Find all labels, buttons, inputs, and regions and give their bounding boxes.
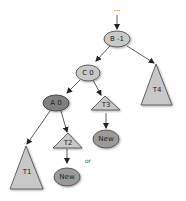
- node-c: C 0: [76, 65, 100, 81]
- edge-b-t4: [127, 46, 154, 63]
- edge-c-a: [67, 80, 80, 93]
- svg-text:A 0: A 0: [50, 99, 61, 107]
- edge-c-t3: [93, 80, 101, 95]
- ellipsis-label: ...: [114, 5, 121, 13]
- svg-text:C 0: C 0: [82, 69, 94, 77]
- subtree-t1: T1: [10, 146, 43, 189]
- edges: [27, 15, 154, 163]
- svg-text:T4: T4: [152, 86, 162, 94]
- edge-b-c: [96, 46, 110, 61]
- subtree-t3: T3: [91, 96, 120, 110]
- svg-text:New: New: [98, 135, 114, 143]
- edge-a-t1: [27, 111, 50, 144]
- svg-text:T2: T2: [63, 139, 73, 147]
- subtree-t2: T2: [53, 133, 82, 148]
- subtree-t4: T4: [141, 64, 172, 105]
- tree-diagram: ... B -1 C 0 A 0 T4 T3 New: [0, 0, 186, 201]
- node-b: B -1: [104, 31, 130, 47]
- or-label: or: [85, 157, 92, 164]
- node-a: A 0: [43, 95, 69, 111]
- svg-text:New: New: [59, 173, 75, 181]
- node-new-t2: New: [54, 168, 80, 186]
- node-new-t3: New: [93, 130, 119, 148]
- svg-text:B -1: B -1: [110, 35, 124, 43]
- svg-text:T3: T3: [101, 101, 111, 109]
- svg-text:T1: T1: [22, 168, 32, 176]
- edge-a-t2: [61, 111, 67, 132]
